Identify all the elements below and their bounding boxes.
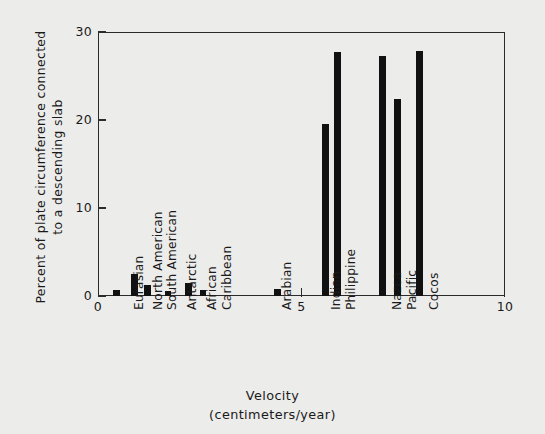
y-tick <box>98 207 106 208</box>
bar <box>394 99 401 296</box>
category-label: Indian <box>330 271 342 310</box>
bar <box>379 56 386 296</box>
category-label: Cocos <box>428 273 440 310</box>
x-axis-title-line-2: (centimeters/year) <box>0 405 545 424</box>
x-axis-title-line-1: Velocity <box>0 386 545 405</box>
category-label: African <box>206 266 218 310</box>
bar <box>113 290 120 296</box>
y-axis-title: Percent of plate circumference connected… <box>32 22 66 312</box>
bar <box>322 124 329 296</box>
x-axis-title: Velocity (centimeters/year) <box>0 386 545 424</box>
y-axis-title-line-2: to a descending slab <box>49 22 66 312</box>
y-tick-label: 30 <box>58 24 92 39</box>
category-label: North American <box>152 211 164 310</box>
x-tick <box>504 288 505 297</box>
y-tick-label: 10 <box>58 200 92 215</box>
figure-canvas: Percent of plate circumference connected… <box>0 0 545 434</box>
bar <box>416 51 423 296</box>
y-tick <box>98 295 106 296</box>
category-label: Arabian <box>281 261 293 310</box>
category-label: South American <box>166 210 178 310</box>
category-label: Pacific <box>406 270 418 310</box>
y-tick <box>98 119 106 120</box>
category-label: Antarctic <box>186 254 198 310</box>
category-label: Caribbean <box>221 246 233 310</box>
x-tick <box>301 288 302 297</box>
y-tick <box>98 31 106 32</box>
y-axis-title-line-1: Percent of plate circumference connected <box>32 22 49 312</box>
x-tick-label: 10 <box>490 299 520 314</box>
category-label: Philippine <box>345 249 357 310</box>
category-label: Nazca <box>391 272 403 310</box>
y-tick-label: 20 <box>58 112 92 127</box>
x-tick-label: 0 <box>83 299 113 314</box>
category-label: Eurasian <box>133 256 145 310</box>
bar <box>334 52 341 296</box>
